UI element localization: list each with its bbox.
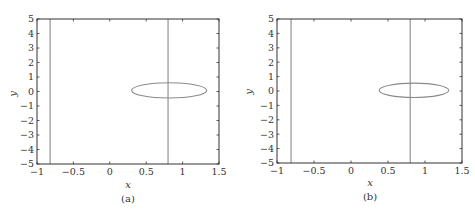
chart-panel-b: −1−0.500.511.5543210−1−2−3−4−5 y x (b) [238,0,475,212]
plot-area-a: −1−0.500.511.5543210−1−2−3−4−5 [20,13,227,177]
y-tick-label: −4 [20,144,34,155]
y-tick-label: −2 [260,114,274,125]
y-tick-label: 2 [28,57,34,68]
x-tick-label: 1 [180,166,186,177]
y-tick-label: −1 [260,100,274,111]
y-tick-label: 0 [268,85,274,96]
ellipse-curve [132,83,207,98]
axes-frame [37,19,219,164]
panel-label: (a) [121,193,135,204]
ellipse-curve [379,83,449,97]
y-tick-label: 3 [268,42,274,53]
chart-panel-a: −1−0.500.511.5543210−1−2−3−4−5 y x (a) [0,0,238,212]
y-axis-label: y [7,91,18,98]
y-tick-label: −4 [260,143,274,154]
y-tick-label: −5 [260,157,274,168]
y-tick-label: 4 [28,28,34,39]
y-tick-label: 5 [28,13,34,24]
y-tick-label: −1 [20,100,34,111]
x-tick-label: 1 [422,165,428,176]
y-tick-label: 1 [28,71,34,82]
axes-frame [277,19,462,163]
plot-area-b: −1−0.500.511.5543210−1−2−3−4−5 [260,13,470,176]
x-tick-label: 1.5 [454,165,469,176]
x-tick-label: 0.5 [139,166,154,177]
x-axis-label: x [367,177,373,188]
x-tick-label: 0 [348,165,354,176]
x-tick-label: 0.5 [380,165,395,176]
y-tick-label: −3 [260,129,274,140]
y-tick-label: 1 [268,71,274,82]
y-tick-label: −5 [20,158,34,169]
y-tick-label: 5 [268,13,274,24]
x-tick-label: 1.5 [211,166,226,177]
x-tick-label: −0.5 [302,165,325,176]
y-axis-label: y [243,89,254,96]
y-tick-label: 3 [28,42,34,53]
x-tick-label: −0.5 [62,166,85,177]
y-tick-label: −2 [20,115,34,126]
y-tick-label: 4 [268,28,274,39]
x-tick-label: 0 [107,166,113,177]
panel-label: (b) [363,191,377,202]
y-tick-label: 0 [28,86,34,97]
x-axis-label: x [125,179,131,190]
y-tick-label: −3 [20,129,34,140]
y-tick-label: 2 [268,57,274,68]
